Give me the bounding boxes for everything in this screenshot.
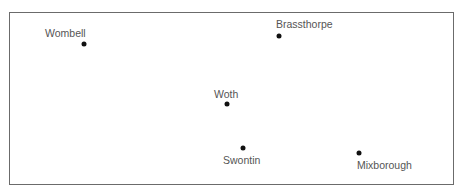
place-marker-mixborough[interactable] — [357, 151, 362, 156]
place-label-brassthorpe: Brassthorpe — [276, 19, 333, 30]
place-label-woth: Woth — [214, 89, 238, 100]
place-marker-woth[interactable] — [225, 102, 230, 107]
place-label-swontin: Swontin — [223, 155, 260, 166]
place-marker-swontin[interactable] — [241, 146, 246, 151]
place-label-wombell: Wombell — [45, 28, 86, 39]
place-marker-brassthorpe[interactable] — [277, 34, 282, 39]
place-marker-wombell[interactable] — [82, 42, 87, 47]
place-label-mixborough: Mixborough — [357, 160, 412, 171]
